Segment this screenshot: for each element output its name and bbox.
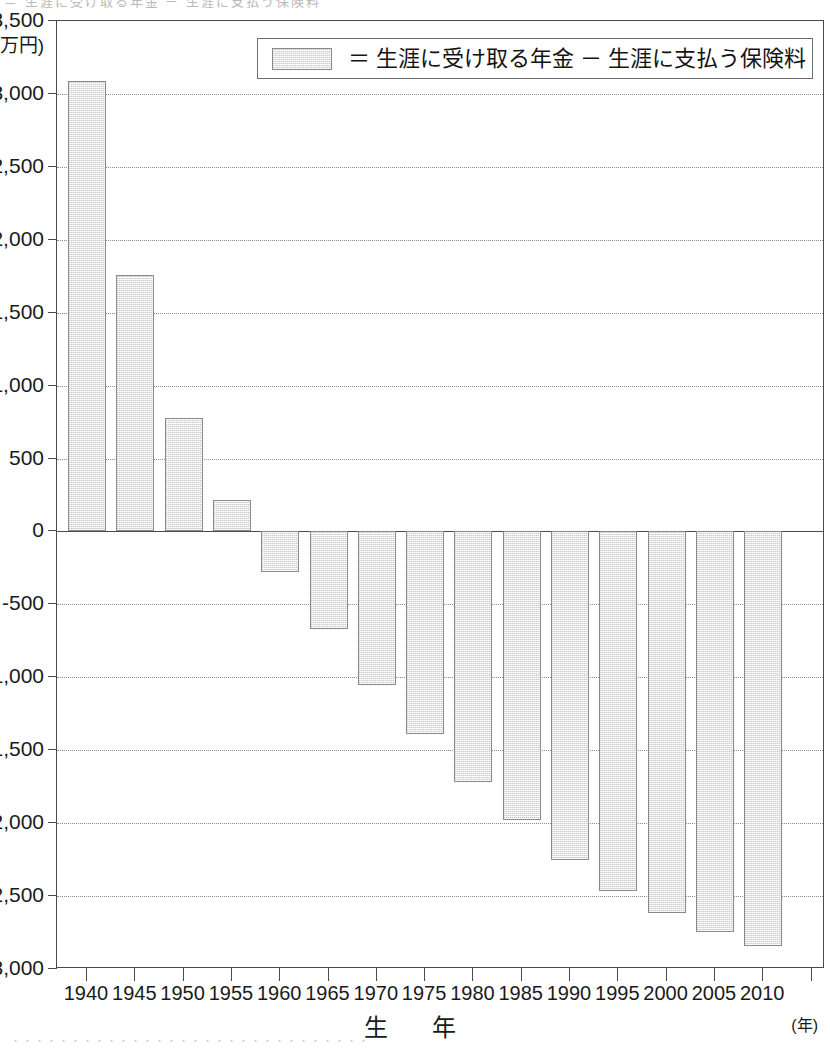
y-axis-label-2000: 2,000 <box>0 228 44 249</box>
y-axis-tick-2000 <box>48 239 57 240</box>
x-axis-tick-2000 <box>666 968 667 981</box>
gridline-y-1000 <box>57 386 823 387</box>
bar-1975 <box>406 531 444 734</box>
y-axis-label-3500: 3,500 <box>0 9 44 30</box>
bar-1970 <box>358 531 396 684</box>
x-axis-label-2000: 2000 <box>641 982 689 1004</box>
gridline-y-3000 <box>57 94 823 95</box>
legend-swatch-icon <box>272 48 332 70</box>
legend-label: ＝ 生涯に受け取る年金 － 生涯に支払う保険料 <box>348 47 806 71</box>
bar-1995 <box>599 531 637 891</box>
bar-2010 <box>744 531 782 946</box>
bar-1965 <box>310 531 348 629</box>
x-axis-tick-1990 <box>569 968 570 981</box>
x-axis-label-1965: 1965 <box>303 982 351 1004</box>
bar-1955 <box>213 500 251 531</box>
x-axis-unit-label: (年) <box>791 1012 818 1036</box>
pension-balance-bar-chart: (万円) ＝ 生涯に受け取る年金 － 生涯に支払う保険料 生 年 (年) 3,5… <box>0 0 830 1051</box>
plot-inner <box>57 21 823 967</box>
x-axis-label-1980: 1980 <box>448 982 496 1004</box>
gridline-y-2000 <box>57 240 823 241</box>
y-axis-tick-0 <box>48 530 57 531</box>
x-axis-tick-1995 <box>617 968 618 981</box>
gridline-y-2500 <box>57 167 823 168</box>
x-axis-label-1955: 1955 <box>207 982 255 1004</box>
x-axis-label-1945: 1945 <box>110 982 158 1004</box>
y-axis-tick--1500 <box>48 749 57 750</box>
x-axis-label-1960: 1960 <box>255 982 303 1004</box>
x-axis-tick-1985 <box>521 968 522 981</box>
bar-1945 <box>116 275 154 532</box>
plot-area <box>56 20 824 968</box>
x-axis-tick-1975 <box>424 968 425 981</box>
x-axis-tick-1940 <box>86 968 87 981</box>
y-axis-label--1500: -1,500 <box>0 738 44 759</box>
x-axis-label-1975: 1975 <box>400 982 448 1004</box>
y-axis-label-1500: 1,500 <box>0 301 44 322</box>
y-axis-tick-3500 <box>48 20 57 21</box>
y-axis-tick-1000 <box>48 385 57 386</box>
x-axis-tick-1970 <box>376 968 377 981</box>
y-axis-label-500: 500 <box>9 447 44 468</box>
bar-1980 <box>454 531 492 782</box>
y-axis-label-1000: 1,000 <box>0 374 44 395</box>
x-axis-label-1995: 1995 <box>593 982 641 1004</box>
y-axis-tick-3000 <box>48 93 57 94</box>
x-axis-tick-1965 <box>328 968 329 981</box>
bar-1940 <box>68 81 106 532</box>
legend: ＝ 生涯に受け取る年金 － 生涯に支払う保険料 <box>257 38 813 79</box>
y-axis-label-3000: 3,000 <box>0 82 44 103</box>
y-axis-tick--2000 <box>48 822 57 823</box>
y-axis-label--500: -500 <box>2 592 44 613</box>
y-axis-tick--2500 <box>48 895 57 896</box>
bar-2000 <box>648 531 686 912</box>
y-axis-label--3000: -3,000 <box>0 957 44 978</box>
x-axis-tick-end <box>811 968 812 981</box>
y-axis-tick--1000 <box>48 676 57 677</box>
scan-artifact-bottom-text: ・・・・・・・・・・・・・・・・・・・・・・・・・・・・・・ <box>10 1037 370 1048</box>
y-axis-label-0: 0 <box>32 519 44 540</box>
x-axis-tick-1950 <box>183 968 184 981</box>
bar-2005 <box>696 531 734 931</box>
y-axis-tick--3000 <box>48 968 57 969</box>
x-axis-label-1990: 1990 <box>545 982 593 1004</box>
y-axis-label-2500: 2,500 <box>0 155 44 176</box>
y-axis-label--2500: -2,500 <box>0 884 44 905</box>
y-axis-tick-500 <box>48 458 57 459</box>
x-axis-label-1950: 1950 <box>158 982 206 1004</box>
y-axis-label--1000: -1,000 <box>0 665 44 686</box>
x-axis-tick-2005 <box>714 968 715 981</box>
x-axis-tick-1980 <box>472 968 473 981</box>
x-axis-tick-1945 <box>134 968 135 981</box>
gridline-y-1500 <box>57 313 823 314</box>
y-axis-tick-1500 <box>48 312 57 313</box>
x-axis-label-1940: 1940 <box>62 982 110 1004</box>
bar-1990 <box>551 531 589 859</box>
x-axis-tick-2010 <box>762 968 763 981</box>
bar-1985 <box>503 531 541 820</box>
x-axis-label-1970: 1970 <box>352 982 400 1004</box>
x-axis-label-1985: 1985 <box>497 982 545 1004</box>
scan-artifact-bottom: ・・・・・・・・・・・・・・・・・・・・・・・・・・・・・・ <box>0 1037 830 1051</box>
bar-1960 <box>261 531 299 571</box>
y-axis-tick--500 <box>48 603 57 604</box>
y-axis-tick-2500 <box>48 166 57 167</box>
bar-1950 <box>165 418 203 531</box>
x-axis-tick-1960 <box>279 968 280 981</box>
y-axis-label--2000: -2,000 <box>0 811 44 832</box>
x-axis-tick-1955 <box>231 968 232 981</box>
x-axis-label-2005: 2005 <box>690 982 738 1004</box>
y-axis-unit-label: (万円) <box>0 36 44 55</box>
x-axis-label-2010: 2010 <box>738 982 786 1004</box>
